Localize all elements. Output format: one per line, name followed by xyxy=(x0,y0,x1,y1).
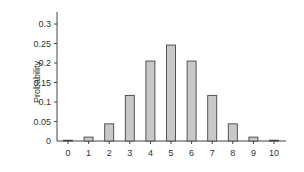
bar-6 xyxy=(187,61,196,141)
x-tick-label: 4 xyxy=(148,148,153,158)
bar-9 xyxy=(249,137,258,141)
x-tick-label: 8 xyxy=(230,148,235,158)
bar-8 xyxy=(228,124,237,141)
bar-4 xyxy=(146,61,155,141)
bar-2 xyxy=(105,124,114,141)
x-tick-label: 1 xyxy=(86,148,91,158)
bar-3 xyxy=(125,95,134,141)
x-tick-label: 5 xyxy=(168,148,173,158)
bar-0 xyxy=(64,140,73,141)
x-tick-label: 3 xyxy=(127,148,132,158)
y-tick-label: 0 xyxy=(46,136,51,146)
x-tick-label: 6 xyxy=(189,148,194,158)
y-axis-label: Probability xyxy=(32,60,42,103)
x-tick-label: 0 xyxy=(65,148,70,158)
bar-5 xyxy=(167,45,176,141)
x-tick-label: 7 xyxy=(210,148,215,158)
x-tick-label: 10 xyxy=(269,148,279,158)
x-tick-label: 9 xyxy=(251,148,256,158)
bar-1 xyxy=(84,137,93,141)
bar-10 xyxy=(270,140,279,141)
y-tick-label: 0.05 xyxy=(33,117,51,127)
bar-7 xyxy=(208,95,217,141)
y-tick-label: 0.3 xyxy=(38,19,51,29)
probability-bar-chart: 00.050.10.150.20.250.3 012345678910 Prob… xyxy=(0,0,304,172)
x-axis: 012345678910 xyxy=(57,141,286,158)
y-tick-label: 0.25 xyxy=(33,39,51,49)
bars xyxy=(64,45,279,141)
x-tick-label: 2 xyxy=(107,148,112,158)
